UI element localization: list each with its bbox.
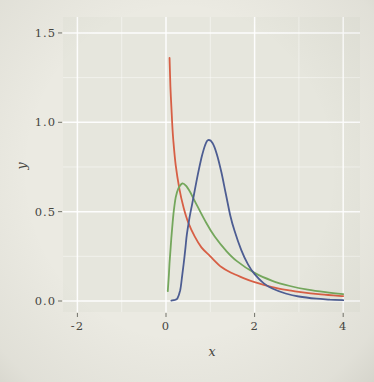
y-tick-label: 1.5 — [35, 26, 56, 40]
x-tick-label: 0 — [162, 319, 170, 333]
y-tick-label: 0.0 — [35, 294, 56, 308]
x-tick-label: -2 — [71, 319, 84, 333]
x-tick-label: 2 — [250, 319, 258, 333]
red-curve — [170, 58, 344, 296]
x-tick-label: 4 — [339, 319, 347, 333]
green-curve — [168, 183, 343, 294]
figure-photo: -20240.00.51.01.5 y x — [0, 0, 374, 382]
y-axis-title: y — [14, 162, 29, 169]
y-tick-label: 0.5 — [35, 205, 56, 219]
x-axis-title: x — [208, 344, 215, 359]
plot-canvas — [0, 0, 374, 382]
y-tick-label: 1.0 — [35, 115, 56, 129]
blue-curve — [171, 140, 343, 301]
